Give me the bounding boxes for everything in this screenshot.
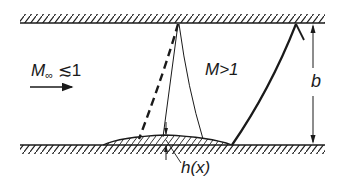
characteristic-line-left [163,24,178,137]
freestream-mach-label: M∞ ≲1 [31,60,81,81]
sonic-line-dashed [139,24,178,139]
mach-symbol: M [31,61,45,80]
shock-line [232,24,296,145]
bump [103,135,232,145]
supersonic-region-label: M>1 [205,60,239,80]
infinity-subscript: ∞ [45,69,53,81]
mach-relation: ≲1 [53,61,81,80]
reflected-shock [296,24,304,40]
characteristic-line-right [179,24,203,139]
bump-height-label: h(x) [181,158,210,178]
channel-height-label: b [311,71,321,92]
upper-wall [20,14,325,23]
channel-flow-diagram [0,0,344,185]
